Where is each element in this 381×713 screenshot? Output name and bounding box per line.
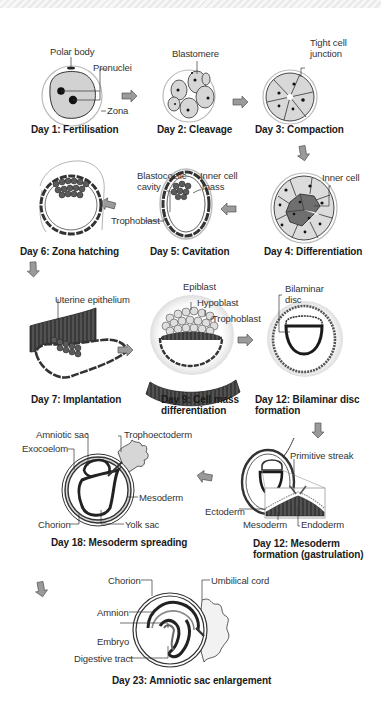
label-embryo: Embryo (97, 636, 129, 647)
label-inner-cell-mass-2: mass (202, 181, 224, 192)
label-junction: junction (310, 48, 342, 59)
label-blastomere: Blastomere (172, 48, 219, 59)
arrow-right-icon (238, 334, 253, 346)
embryo-development-diagram (0, 0, 381, 713)
day3-compaction-diagram (263, 68, 317, 124)
day4-differentiation-diagram (271, 173, 337, 243)
caption-day2: Day 2: Cleavage (157, 124, 232, 136)
arrow-left-icon (196, 469, 213, 483)
arrow-right-icon (233, 96, 248, 108)
day18-mesoderm-spreading-diagram (62, 434, 148, 526)
label-tight-cell: Tight cell (310, 37, 347, 48)
day9-cell-mass-differentiation-diagram (146, 295, 240, 406)
caption-day9-line2: differentiation (161, 405, 226, 417)
caption-day12b-line1: Day 12: Mesoderm (253, 538, 340, 550)
caption-day7: Day 7: Implantation (31, 394, 121, 406)
arrow-left-icon (221, 203, 236, 215)
label-mesoderm-day12: Mesoderm (243, 519, 287, 530)
label-chorion-day18: Chorion (38, 519, 71, 530)
label-trophoblast-day5: Trophoblast (111, 215, 160, 226)
label-disc: disc (285, 294, 302, 305)
label-inner-cell: Inner cell (322, 172, 360, 183)
label-polar-body: Polar body (50, 46, 94, 57)
day6-zona-hatching-diagram (40, 161, 104, 234)
label-cavity: cavity (137, 181, 161, 192)
caption-day12a-line1: Day 12: Bilaminar disc (255, 394, 360, 406)
label-amniotic-sac: Amniotic sac (36, 429, 89, 440)
label-bilaminar: Bilaminar (285, 283, 324, 294)
label-pronuclei: Pronuclei (93, 62, 132, 73)
arrow-down-icon (312, 423, 324, 438)
arrow-right-icon (122, 90, 137, 102)
label-inner-cell-mass-1: Inner cell (200, 170, 238, 181)
label-hypoblast: Hypoblast (197, 297, 238, 308)
caption-day12a-line2: formation (255, 405, 300, 417)
label-primitive-streak: Primitive streak (290, 450, 353, 461)
caption-day23: Day 23: Amniotic sac enlargement (112, 675, 271, 687)
label-trophoblast-day9: Trophoblast (212, 313, 261, 324)
label-yolk-sac: Yolk sac (125, 519, 159, 530)
day2-cleavage-diagram (163, 61, 215, 122)
label-endoderm: Endoderm (301, 519, 344, 530)
caption-day1: Day 1: Fertilisation (31, 124, 118, 136)
label-ectoderm: Ectoderm (205, 506, 245, 517)
label-chorion-day23: Chorion (108, 575, 141, 586)
polar-body-icon (67, 66, 75, 69)
label-umbilical-cord: Umbilical cord (211, 575, 269, 586)
label-epiblast: Epiblast (183, 281, 216, 292)
arrow-down-icon (34, 581, 48, 598)
caption-day4: Day 4: Differentiation (264, 246, 362, 258)
caption-day9-line1: Day 9: Cell mass (161, 394, 239, 406)
arrow-down-icon (296, 145, 310, 162)
caption-day6: Day 6: Zona hatching (20, 246, 119, 258)
label-exocoelom: Exocoelom (22, 443, 68, 454)
arrow-down-icon (27, 262, 40, 277)
day23-amniotic-sac-enlargement-diagram (120, 580, 229, 667)
caption-day12b-line2: formation (gastrulation) (253, 549, 363, 561)
label-mesoderm-day18: Mesoderm (139, 492, 183, 503)
caption-day3: Day 3: Compaction (255, 124, 344, 136)
label-blastocoelic: Blastocoelic (137, 170, 187, 181)
label-uterine-epithelium: Uterine epithelium (55, 294, 130, 305)
label-amnion: Amnion (97, 607, 129, 618)
label-zona: Zona (107, 105, 128, 116)
label-trophoectoderm: Trophoectoderm (124, 429, 192, 440)
day12-bilaminar-disc-diagram (267, 295, 343, 377)
label-digestive-tract: Digestive tract (74, 653, 133, 664)
caption-day18: Day 18: Mesoderm spreading (51, 537, 187, 549)
day7-implantation-diagram (30, 299, 126, 378)
caption-day5: Day 5: Cavitation (150, 246, 229, 258)
